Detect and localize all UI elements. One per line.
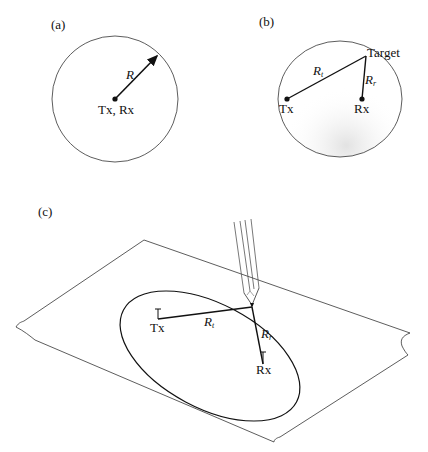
rx-label: Rx xyxy=(354,101,370,116)
panel-c: (c) Tx Rx Rt Rr xyxy=(16,204,410,448)
rx-label: Rx xyxy=(256,362,272,377)
radius-label: R xyxy=(125,67,134,82)
target-label: Target xyxy=(367,45,400,60)
diagram-svg: (a) R Tx, Rx (b) Target Rt Rr Tx Rx (c) xyxy=(0,0,428,452)
pencil-icon xyxy=(234,219,259,308)
tx-label: Tx xyxy=(150,320,165,335)
rt-label: Rt xyxy=(203,314,215,330)
panel-a: (a) R Tx, Rx xyxy=(51,17,178,162)
panel-b-label: (b) xyxy=(259,14,274,29)
panel-c-label: (c) xyxy=(38,204,52,219)
tx-rx-label: Tx, Rx xyxy=(98,102,135,117)
paper-sheet xyxy=(16,240,410,442)
string-ellipse xyxy=(99,264,321,448)
bistatic-radar-diagram: (a) R Tx, Rx (b) Target Rt Rr Tx Rx (c) xyxy=(0,0,428,452)
tx-rx-point xyxy=(112,96,117,101)
radius-arrow xyxy=(115,56,157,99)
panel-a-label: (a) xyxy=(51,17,65,32)
panel-b: (b) Target Rt Rr Tx Rx xyxy=(259,14,402,157)
rr-label: Rr xyxy=(260,326,273,342)
tx-label: Tx xyxy=(279,101,294,116)
